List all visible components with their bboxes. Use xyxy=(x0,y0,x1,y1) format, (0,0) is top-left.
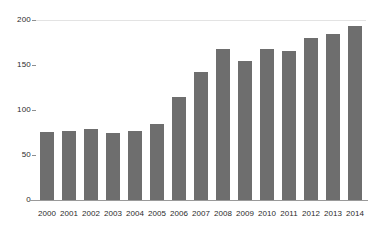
bar-2013[interactable] xyxy=(326,34,341,200)
bar-slot xyxy=(80,20,102,200)
bar-2001[interactable] xyxy=(62,131,77,200)
x-axis-label-2003: 2003 xyxy=(102,209,124,221)
y-axis-label-150: 150 xyxy=(1,61,31,69)
bar-slot xyxy=(190,20,212,200)
bar-slot xyxy=(300,20,322,200)
bar-2008[interactable] xyxy=(216,49,231,200)
bar-slot xyxy=(58,20,80,200)
bar-slot xyxy=(234,20,256,200)
bar-series xyxy=(36,20,366,200)
x-axis-label-2004: 2004 xyxy=(124,209,146,221)
bar-2006[interactable] xyxy=(172,97,187,201)
bar-chart: 200 150 100 50 0 20002001200220032004200… xyxy=(0,0,375,236)
y-axis-labels: 200 150 100 50 0 xyxy=(0,0,31,236)
y-axis-label-50: 50 xyxy=(1,151,31,159)
bar-slot xyxy=(124,20,146,200)
bar-2004[interactable] xyxy=(128,131,143,200)
bar-2005[interactable] xyxy=(150,124,165,201)
x-axis-line xyxy=(30,200,368,201)
bar-slot xyxy=(146,20,168,200)
bar-2002[interactable] xyxy=(84,129,99,200)
bar-2012[interactable] xyxy=(304,38,319,200)
x-axis-label-2013: 2013 xyxy=(322,209,344,221)
x-axis-label-2014: 2014 xyxy=(344,209,366,221)
bar-slot xyxy=(212,20,234,200)
bar-slot xyxy=(102,20,124,200)
bar-slot xyxy=(278,20,300,200)
x-axis-label-2011: 2011 xyxy=(278,209,300,221)
bar-2014[interactable] xyxy=(348,26,363,200)
x-axis-label-2009: 2009 xyxy=(234,209,256,221)
x-axis-label-2005: 2005 xyxy=(146,209,168,221)
bar-slot xyxy=(168,20,190,200)
bar-slot xyxy=(256,20,278,200)
y-axis-label-100: 100 xyxy=(1,106,31,114)
x-axis-label-2002: 2002 xyxy=(80,209,102,221)
x-axis-label-2006: 2006 xyxy=(168,209,190,221)
bar-2011[interactable] xyxy=(282,51,297,200)
bar-2009[interactable] xyxy=(238,61,253,200)
x-axis-label-2007: 2007 xyxy=(190,209,212,221)
y-axis-label-200: 200 xyxy=(1,16,31,24)
x-axis-label-2001: 2001 xyxy=(58,209,80,221)
bar-2010[interactable] xyxy=(260,49,275,200)
bar-slot xyxy=(322,20,344,200)
x-axis-label-2000: 2000 xyxy=(36,209,58,221)
bar-slot xyxy=(36,20,58,200)
bar-2003[interactable] xyxy=(106,133,121,200)
x-axis-label-2008: 2008 xyxy=(212,209,234,221)
x-axis-label-2010: 2010 xyxy=(256,209,278,221)
x-axis-label-2012: 2012 xyxy=(300,209,322,221)
bar-2000[interactable] xyxy=(40,132,55,200)
bar-slot xyxy=(344,20,366,200)
bar-2007[interactable] xyxy=(194,72,209,200)
plot-area xyxy=(36,20,366,200)
y-axis-label-0: 0 xyxy=(1,196,31,204)
x-axis-labels: 2000200120022003200420052006200720082009… xyxy=(36,209,366,221)
